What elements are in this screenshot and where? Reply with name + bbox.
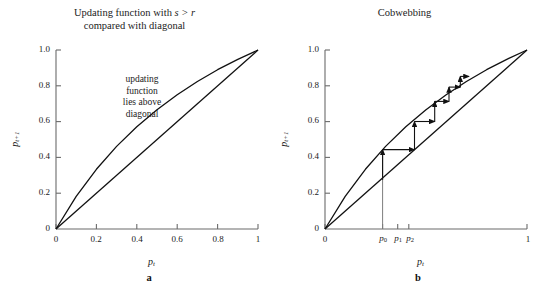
panel-a-ytick-0.6: 0.6	[18, 115, 50, 125]
panel-a-letter: a	[141, 272, 157, 283]
panel-a-annotation: updating function lies above diagonal	[96, 74, 188, 120]
panel-b-cobweb-arrows	[383, 76, 469, 179]
panel-b-ytick-0.8: 0.8	[287, 80, 319, 90]
panel-a-xtick-0.6: 0.6	[162, 234, 192, 244]
panel-b-xtick-p2: p2	[397, 233, 423, 243]
panel-a-ytick-0.2: 0.2	[18, 187, 50, 197]
panel-a-xtick-0.4: 0.4	[122, 234, 152, 244]
panel-b-ytick-0: 0	[287, 223, 319, 233]
panel-b-yaxis-title: pt+1	[278, 119, 290, 159]
panel-a-xaxis-title: pt	[148, 256, 155, 268]
panel-b: Cobwebbing	[270, 0, 539, 297]
panel-a-annotation-line-1: updating	[125, 74, 158, 84]
panel-a-xtick-0: 0	[41, 234, 71, 244]
panel-a-xtick-0.2: 0.2	[81, 234, 111, 244]
panel-b-yaxis-title-sub: t+1	[282, 132, 290, 142]
panel-b-xtick-1: 1	[513, 234, 539, 244]
panel-a-ytick-1.0: 1.0	[18, 44, 50, 54]
panel-a-y-ticks	[56, 50, 61, 193]
panel-b-xtick-0: 0	[310, 234, 340, 244]
panel-b-xaxis-title: pt	[417, 256, 424, 268]
panel-a-yaxis-title-sub: t+1	[13, 132, 21, 142]
panel-a-ytick-0.4: 0.4	[18, 151, 50, 161]
panel-a-xaxis-title-sub: t	[153, 260, 155, 268]
panel-b-diagonal-line	[325, 50, 527, 229]
panel-b-yaxis-title-base: p	[278, 142, 289, 147]
panel-a-annotation-line-3: lies above	[123, 97, 161, 107]
panel-a-xtick-1: 1	[243, 234, 273, 244]
panel-a: Updating function with s > r compared wi…	[0, 0, 269, 297]
panel-a-annotation-line-4: diagonal	[126, 109, 159, 119]
panel-a-yaxis-title: pt+1	[9, 119, 21, 159]
panel-b-ytick-0.4: 0.4	[287, 151, 319, 161]
panel-a-x-ticks	[56, 224, 258, 229]
panel-b-ytick-0.6: 0.6	[287, 115, 319, 125]
panel-b-x-ticks	[325, 224, 527, 229]
panel-b-xaxis-title-sub: t	[422, 260, 424, 268]
panel-b-letter: b	[410, 272, 426, 283]
panel-b-ytick-0.2: 0.2	[287, 187, 319, 197]
panel-a-ytick-0.8: 0.8	[18, 80, 50, 90]
figure-root: Updating function with s > r compared wi…	[0, 0, 539, 297]
panel-b-ytick-1.0: 1.0	[287, 44, 319, 54]
panel-a-xtick-0.8: 0.8	[203, 234, 233, 244]
panel-a-yaxis-title-base: p	[9, 142, 20, 147]
panel-b-y-ticks	[325, 50, 330, 193]
panel-a-ytick-0: 0	[18, 223, 50, 233]
panel-b-xtick-p2-sub: 2	[411, 236, 414, 243]
panel-a-annotation-line-2: function	[126, 86, 158, 96]
